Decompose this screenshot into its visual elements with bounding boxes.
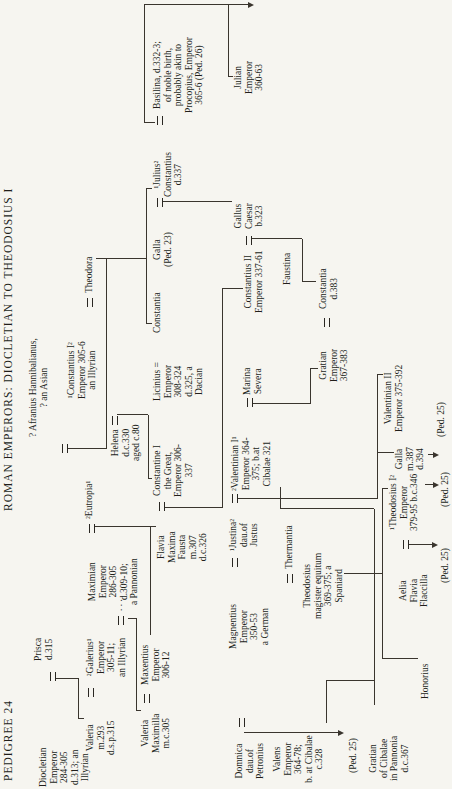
connector-line (144, 122, 155, 123)
connector-line (310, 368, 318, 369)
marriage-sign-diocletian-prisca (50, 672, 56, 681)
connector-line (238, 498, 377, 499)
person-valentinian-i: ²Valentinian I¹Emperor 364-375; b.atCiba… (230, 437, 272, 492)
connector-line (146, 189, 147, 324)
person-theodosius-magister-equitum: Theodosiusmagister equitum369-375; aSpan… (302, 553, 344, 619)
arrow-head-valens-ped25 (338, 730, 344, 736)
person-constantius-ii: Constantius IIEmperor 337-61 (243, 250, 264, 313)
connector-line (78, 678, 79, 719)
connector-line (78, 718, 84, 719)
ped25-label-galla: (Ped. 25) (436, 402, 446, 437)
marriage-sign-galla-julius (157, 198, 163, 207)
person-theodosius-i: ¹Theodosius I²Emperor379-95 b.c.346 (388, 474, 420, 531)
ped25-label-flaccilla: (Ped. 25) (440, 548, 450, 583)
person-diocletian: DiocletianEmperor284-305d.313; anIllyria… (38, 747, 91, 787)
connector-line (382, 488, 388, 489)
connector-line (68, 448, 106, 449)
person-aelia-flavia-flaccilla: AeliaFlaviaFlaccilla (398, 574, 430, 607)
connector-line (377, 374, 383, 375)
connector-line (310, 369, 311, 404)
marriage-sign-thermantia-theodosius (287, 574, 293, 583)
person-gratian-of-cibalae: Gratianof Cibalaein Pannoniad.c.367 (368, 736, 410, 781)
person-valeria-maximilla: ValeriaMaximillam.c.305 (140, 713, 172, 753)
person-constantius-i: ¹Constantius I²Emperor 305-6an Illyrian (66, 341, 98, 399)
connector-line (382, 489, 383, 659)
connector-line (302, 281, 316, 282)
connector-line (148, 415, 149, 479)
person-gallus-caesar: GallusCaesarb.323 (233, 203, 265, 229)
connector-line (326, 680, 374, 681)
connector-line (163, 201, 232, 202)
person-eutropia: ²Eutropia¹ (84, 481, 95, 519)
person-valens: ValensEmperor364-78;b. at Cibalaec.328 (272, 735, 325, 783)
marriage-sign-helena-constantius (112, 416, 118, 425)
connector-line (106, 259, 107, 449)
connector-line (136, 618, 137, 711)
ped25-label-theodosius: (Ped. 25) (440, 472, 450, 507)
connector-line (326, 681, 327, 723)
person-maximian: MaximianEmperor286-305d.309-10;a Pannoni… (87, 558, 140, 605)
ped25-label-valens: (Ped. 25) (348, 738, 358, 773)
person-constantia: Constantia (152, 292, 163, 333)
marriage-sign-maximilla-maxentius (144, 694, 150, 703)
connector-line (146, 323, 152, 324)
connector-line (95, 526, 156, 527)
person-helena: Helenad.c.330aged c.80 (110, 425, 142, 461)
person-galerius: ²Galerius¹Emperor305-11;an Illyrian (85, 638, 127, 677)
connector-line (56, 678, 78, 679)
person-afranius-hannibalianus: ? Afranius Hannibalianus,? an Asian (28, 338, 49, 437)
person-constantia-d383: Constantiad.383 (318, 268, 339, 309)
connector-line (136, 710, 141, 711)
arrow-head-galla-ped25 (433, 452, 439, 458)
arrow-head-theodosius-ped25 (433, 482, 439, 488)
marriage-sign-julius-basilina (157, 116, 163, 125)
marriage-sign-valeria-galerius (88, 688, 94, 697)
person-prisca: Priscad.315 (33, 638, 54, 661)
connector-line (228, 5, 229, 77)
marriage-sign-domnica-valens (239, 718, 245, 727)
connector-line (96, 258, 146, 259)
connector-line (144, 5, 145, 123)
connector-line (222, 289, 223, 508)
connector-line (377, 375, 378, 499)
connector-line (150, 527, 151, 635)
person-justina: ¹Justina²dau.ofJustus (228, 519, 260, 551)
person-domnica: Domnicadau.ofPetronius (234, 743, 266, 779)
person-constantine-i: Constantine Ithe Great,Emperor 306-337 (152, 444, 194, 497)
connector-line (280, 487, 281, 509)
marriage-sign-magnentius-justina (232, 558, 238, 567)
connector-line (302, 239, 303, 282)
marriage-sign-gratian-constantia (324, 318, 330, 327)
person-magnentius: MagnentiusEmperor350-53a German (228, 604, 270, 649)
person-julian: JulianEmperor360-63 (233, 61, 265, 94)
scanned-book-page: PEDIGREE 24 ROMAN EMPERORS: DIOCLETIAN T… (0, 0, 452, 789)
connector-line (144, 4, 248, 5)
person-valentinian-ii: Valentinian IIEmperor 375-392 (383, 365, 404, 432)
connector-line (374, 509, 375, 705)
person-marina-severa: MarinaSevera (242, 368, 263, 395)
person-maxentius: MaxentiusEmperor306-12 (140, 645, 172, 685)
unknown-wife-dots: . . . (114, 599, 124, 611)
arrow-head-flaccilla-ped25 (432, 542, 438, 548)
connector-line (165, 507, 222, 508)
person-honorius: Honorius (420, 664, 431, 699)
person-valeria: Valeriam.293d.s.p.315 (85, 720, 117, 755)
person-basilina: Basilina, d.332-3;of noble birth,probabl… (152, 37, 205, 113)
connector-line (148, 478, 152, 479)
marriage-sign-constantius-theodora (87, 298, 93, 307)
person-faustina: Faustina (282, 253, 293, 285)
connector-line (253, 403, 310, 404)
person-fausta: FlaviaMaximaFaustam.307d.c.326 (156, 531, 209, 563)
connector-line (382, 658, 418, 659)
connector-line (252, 238, 302, 239)
arrow-line-flaccilla-ped25 (409, 544, 433, 545)
connector-line (377, 452, 394, 453)
arrow-line-valens-ped25 (244, 732, 338, 733)
person-julius-constantius: ¹Julius²Constantiusd.337 (152, 152, 184, 197)
person-thermantia: Thermantia (284, 525, 295, 569)
person-licinius: Licinius =Emperor308-324d.325, aDacian (152, 362, 205, 401)
connector-line (280, 508, 374, 509)
person-theodora: Theodora (84, 257, 95, 293)
person-gratian-emperor: GratianEmperor367-383 (318, 349, 350, 382)
connector-line (228, 76, 233, 77)
